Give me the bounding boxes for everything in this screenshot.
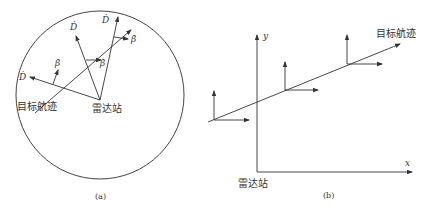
x-axis-label: x (405, 158, 410, 168)
caption-a: (a) (95, 192, 106, 201)
radar-label-b: 雷达站 (238, 177, 268, 189)
caption-b: (b) (323, 191, 334, 200)
radar-label-a: 雷达站 (92, 102, 122, 114)
track-label-b: 目标航迹 (376, 27, 416, 39)
target-track-line-b (208, 44, 400, 122)
panel-a (16, 11, 184, 179)
range-line-2 (76, 36, 100, 100)
beta-dot-label-1: β̇ (54, 58, 60, 68)
coverage-circle (16, 11, 184, 179)
figure: Ḋ Ḋ Ḋ β̇ β̇ β̇ 目标航迹 雷达站 (a) y x 目标航迹 雷达站… (0, 0, 431, 211)
d-dot-label-2: Ḋ (69, 21, 77, 32)
range-line-1 (30, 77, 100, 100)
y-axis-label: y (262, 31, 269, 41)
track-label-a: 目标航迹 (17, 100, 57, 112)
beta-dot-label-2: β̇ (99, 58, 105, 68)
d-dot-label-1: Ḋ (18, 71, 26, 82)
beta-vector-1 (53, 70, 58, 84)
panel-b-labels: y x 目标航迹 雷达站 (b) (238, 27, 416, 200)
panel-b (208, 35, 412, 172)
beta-dot-label-3: β̇ (130, 34, 136, 44)
d-dot-label-3: Ḋ (101, 14, 109, 25)
